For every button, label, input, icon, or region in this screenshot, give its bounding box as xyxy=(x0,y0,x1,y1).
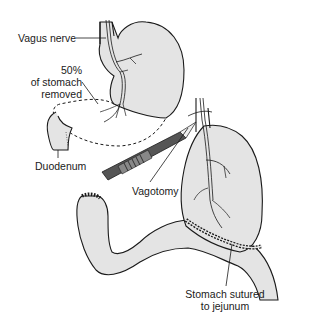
reconstructed-stomach xyxy=(77,98,278,300)
scalpel-icon xyxy=(102,122,196,180)
label-removed-line1: 50% xyxy=(12,64,82,76)
label-vagotomy: Vagotomy xyxy=(132,185,179,197)
label-removed-line2: of stomach xyxy=(12,76,82,88)
removed-leader xyxy=(82,82,98,104)
label-vagus-nerve: Vagus nerve xyxy=(18,32,76,44)
label-removed-line3: removed xyxy=(12,88,82,100)
label-sutured-line2: to jejunum xyxy=(170,300,280,312)
label-sutured-line1: Stomach sutured xyxy=(170,288,280,300)
label-duodenum: Duodenum xyxy=(35,160,86,172)
vagotomy-leader xyxy=(150,128,188,182)
label-removed: 50% of stomach removed xyxy=(12,64,82,100)
label-sutured: Stomach sutured to jejunum xyxy=(170,288,280,312)
